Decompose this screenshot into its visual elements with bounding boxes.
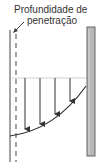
conductor-bar [87,27,95,156]
decay-curve [10,86,86,136]
penetration-depth-diagram [0,0,102,162]
